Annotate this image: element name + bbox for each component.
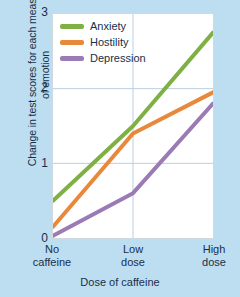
- legend-label-anxiety: Anxiety: [90, 20, 126, 32]
- legend: Anxiety Hostility Depression: [60, 18, 152, 66]
- legend-swatch-anxiety: [60, 24, 84, 29]
- y-tick-1: 1: [30, 156, 48, 170]
- legend-swatch-hostility: [60, 40, 84, 45]
- legend-label-depression: Depression: [90, 52, 146, 64]
- x-tick-low-dose: Lowdose: [98, 243, 168, 269]
- legend-item-hostility: Hostility: [60, 34, 152, 50]
- legend-item-depression: Depression: [60, 50, 152, 66]
- legend-item-anxiety: Anxiety: [60, 18, 152, 34]
- x-axis-title: Dose of caffeine: [0, 276, 240, 288]
- legend-swatch-depression: [60, 56, 84, 61]
- x-axis-tick-labels: NocaffeineLowdoseHighdose: [0, 243, 240, 275]
- x-tick-no-caffeine: Nocaffeine: [17, 243, 87, 269]
- y-tick-2: 2: [30, 80, 48, 94]
- legend-label-hostility: Hostility: [90, 36, 129, 48]
- x-tick-high-dose: Highdose: [179, 243, 240, 269]
- caffeine-emotion-line-chart: Change in test scores for each measure o…: [0, 0, 240, 297]
- y-tick-3: 3: [30, 5, 48, 19]
